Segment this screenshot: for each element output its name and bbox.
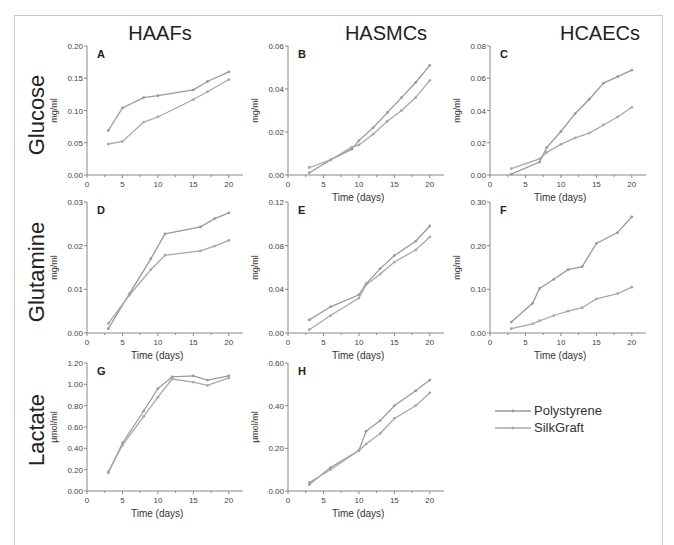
data-point <box>428 225 431 228</box>
data-point <box>393 404 396 407</box>
y-tick-label: 0.02 <box>470 139 486 148</box>
data-point <box>308 166 311 169</box>
chart-panel-d: 0.000.010.020.0305101520Time (days)mg/ml… <box>49 198 243 361</box>
y-tick-label: 0.00 <box>268 171 284 180</box>
y-tick-label: 0.20 <box>268 444 284 453</box>
data-point <box>199 250 202 253</box>
data-point <box>121 444 124 447</box>
x-tick-label: 5 <box>321 180 326 189</box>
legend-label-silkgraft: SilkGraft <box>534 420 584 435</box>
data-point <box>308 481 311 484</box>
x-tick-label: 0 <box>85 338 90 347</box>
series-polystyrene <box>108 376 229 473</box>
series-polystyrene <box>309 380 430 485</box>
data-point <box>164 232 167 235</box>
x-tick-label: 10 <box>556 338 565 347</box>
series-silkgraft <box>511 287 632 329</box>
x-tick-label: 5 <box>120 338 125 347</box>
data-point <box>630 69 633 72</box>
x-tick-label: 15 <box>189 496 198 505</box>
data-point <box>630 286 633 289</box>
data-point <box>227 70 230 73</box>
data-point <box>107 143 110 146</box>
data-point <box>142 96 145 99</box>
x-tick-label: 20 <box>224 338 233 347</box>
data-point <box>560 130 563 133</box>
x-tick-label: 5 <box>120 496 125 505</box>
data-point <box>149 268 152 271</box>
data-point <box>227 212 230 215</box>
panel-letter: F <box>500 204 507 216</box>
data-point <box>414 249 417 252</box>
data-point <box>393 261 396 264</box>
panel-letter: C <box>500 48 508 60</box>
data-point <box>428 391 431 394</box>
data-point <box>552 314 555 317</box>
data-point <box>581 265 584 268</box>
x-tick-label: 20 <box>425 338 434 347</box>
series-polystyrene <box>511 217 632 322</box>
y-tick-label: 0.30 <box>470 198 486 207</box>
chart-panel-a: 0.000.050.100.150.2005101520mg/mlA <box>49 42 243 189</box>
data-point <box>393 254 396 257</box>
data-point <box>581 306 584 309</box>
data-point <box>142 415 145 418</box>
column-title-hasmcs: HASMCs <box>345 22 427 44</box>
data-point <box>372 126 375 129</box>
data-point <box>213 217 216 220</box>
series-silkgraft <box>511 107 632 168</box>
x-tick-label: 10 <box>354 338 363 347</box>
y-tick-label: 0.02 <box>268 128 284 137</box>
data-point <box>414 389 417 392</box>
y-tick-label: 0.00 <box>67 329 83 338</box>
panel-letter: G <box>97 365 106 377</box>
x-tick-label: 15 <box>592 180 601 189</box>
x-tick-label: 20 <box>425 180 434 189</box>
data-point <box>149 257 152 260</box>
y-tick-label: 0.00 <box>268 329 284 338</box>
series-polystyrene <box>511 70 632 174</box>
x-tick-label: 5 <box>321 338 326 347</box>
y-axis-label: mg/ml <box>452 255 462 280</box>
series-silkgraft <box>108 80 229 145</box>
data-point <box>414 96 417 99</box>
data-point <box>545 146 548 149</box>
data-point <box>192 88 195 91</box>
y-axis-label: mg/ml <box>49 98 59 123</box>
y-tick-label: 0.12 <box>268 198 284 207</box>
data-point <box>107 129 110 132</box>
x-tick-label: 10 <box>153 338 162 347</box>
data-point <box>386 111 389 114</box>
y-tick-label: 0.04 <box>268 285 284 294</box>
y-tick-label: 0.15 <box>67 74 83 83</box>
x-tick-label: 0 <box>286 496 291 505</box>
y-tick-label: 0.06 <box>268 42 284 51</box>
series-polystyrene <box>309 226 430 320</box>
data-point <box>365 443 368 446</box>
x-tick-label: 20 <box>224 180 233 189</box>
data-point <box>192 98 195 101</box>
data-point <box>560 143 563 146</box>
x-tick-label: 0 <box>85 180 90 189</box>
data-point <box>567 268 570 271</box>
y-tick-label: 0.04 <box>268 85 284 94</box>
y-tick-label: 0.10 <box>470 285 486 294</box>
data-point <box>538 287 541 290</box>
data-point <box>538 161 541 164</box>
x-tick-label: 0 <box>488 338 493 347</box>
x-tick-label: 5 <box>120 180 125 189</box>
y-tick-label: 0.80 <box>67 402 83 411</box>
y-tick-label: 0.03 <box>67 198 83 207</box>
data-point <box>121 107 124 110</box>
data-point <box>192 381 195 384</box>
data-point <box>329 314 332 317</box>
data-point <box>510 173 513 176</box>
data-point <box>308 319 311 322</box>
y-tick-label: 1.00 <box>67 380 83 389</box>
legend-label-polystyrene: Polystyrene <box>534 403 602 418</box>
data-point <box>616 116 619 119</box>
x-tick-label: 15 <box>390 338 399 347</box>
data-point <box>157 94 160 97</box>
y-tick-label: 0.00 <box>67 171 83 180</box>
